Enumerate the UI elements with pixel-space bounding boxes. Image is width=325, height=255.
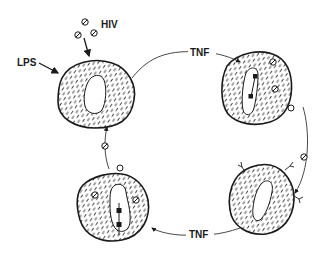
hiv-label: HIV — [101, 19, 118, 30]
lps-arrow — [39, 63, 58, 73]
hiv-tnf-cycle-diagram: HIV LPS TNF TNF — [0, 0, 325, 255]
hiv-arrow — [84, 38, 89, 56]
budding-virion — [288, 105, 294, 111]
cell-bottom-left — [77, 165, 148, 241]
cell-top-left — [58, 61, 135, 128]
cell-bottom-right — [229, 154, 307, 234]
virion-left-arc — [102, 143, 108, 149]
cell-top-right — [222, 52, 294, 124]
tnf-label-bottom: TNF — [189, 229, 208, 240]
arc-top-right-to-bottom-right — [295, 107, 308, 193]
lps-label: LPS — [17, 57, 37, 68]
budding-virion — [117, 165, 123, 171]
tnf-label-top: TNF — [190, 47, 209, 58]
hiv-virions — [75, 19, 97, 38]
